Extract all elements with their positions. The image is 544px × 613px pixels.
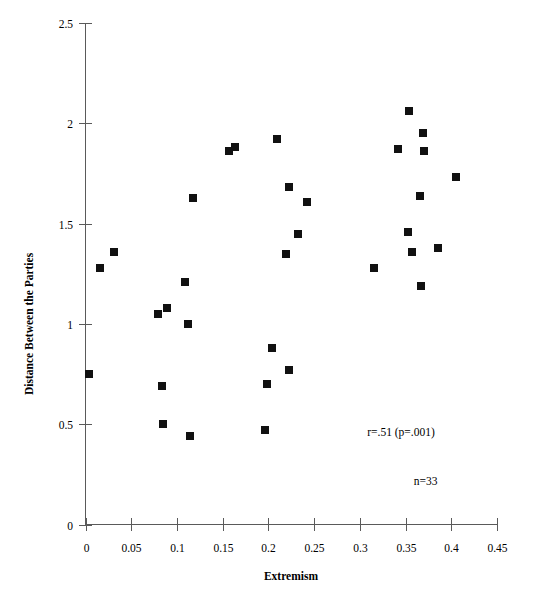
x-tick-label: 0.3 <box>353 542 368 554</box>
y-tick-label: 2 <box>67 118 73 130</box>
y-tick-label: 0.5 <box>59 419 74 431</box>
x-tick-label: 0.35 <box>396 542 416 554</box>
data-point <box>394 145 402 153</box>
annotation-correlation: r=.51 (p=.001) <box>367 426 435 439</box>
data-point <box>420 147 428 155</box>
data-point <box>231 143 239 151</box>
data-point <box>181 278 189 286</box>
data-point <box>303 198 311 206</box>
y-axis-title: Distance Between the Parties <box>23 252 35 395</box>
y-tick-label: 1.5 <box>59 219 74 231</box>
y-tick-label: 2.5 <box>59 18 74 30</box>
x-axis-tick-labels: 00.050.10.150.20.250.30.350.40.45 <box>84 542 508 554</box>
data-point <box>294 230 302 238</box>
data-point <box>416 192 424 200</box>
data-point <box>85 370 93 378</box>
data-point <box>163 304 171 312</box>
data-point <box>408 248 416 256</box>
data-point <box>261 426 269 434</box>
data-point <box>452 173 460 181</box>
annotation-sample-size: n=33 <box>414 475 438 487</box>
x-tick-label: 0 <box>84 542 90 554</box>
x-tick-label: 0.25 <box>304 542 324 554</box>
data-point <box>263 380 271 388</box>
data-point <box>434 244 442 252</box>
x-tick-label: 0.4 <box>444 542 459 554</box>
data-point <box>404 228 412 236</box>
data-point <box>370 264 378 272</box>
scatter-plot-figure: 00.511.522.5 00.050.10.150.20.250.30.350… <box>0 0 544 613</box>
data-point <box>159 420 167 428</box>
x-tick-label: 0.15 <box>213 542 233 554</box>
chart-canvas: 00.511.522.5 00.050.10.150.20.250.30.350… <box>0 0 544 613</box>
data-point <box>110 248 118 256</box>
data-point <box>285 366 293 374</box>
data-point <box>96 264 104 272</box>
data-point <box>273 135 281 143</box>
data-point <box>419 129 427 137</box>
chart-annotations: r=.51 (p=.001)n=33 <box>367 426 438 487</box>
x-tick-label: 0.05 <box>121 542 141 554</box>
x-tick-label: 0.45 <box>487 542 507 554</box>
data-point <box>285 183 293 191</box>
data-point <box>189 194 197 202</box>
y-tick-label: 0 <box>67 520 73 532</box>
x-tick-label: 0.1 <box>170 542 185 554</box>
x-tick-label: 0.2 <box>261 542 276 554</box>
y-axis-tick-labels: 00.511.522.5 <box>59 18 74 532</box>
data-point <box>405 107 413 115</box>
data-point <box>268 344 276 352</box>
data-point <box>186 432 194 440</box>
data-point <box>417 282 425 290</box>
data-point <box>282 250 290 258</box>
data-point <box>154 310 162 318</box>
data-point-markers <box>85 107 460 440</box>
data-point <box>158 382 166 390</box>
y-tick-label: 1 <box>67 319 73 331</box>
x-axis-title: Extremism <box>264 570 319 582</box>
data-point <box>184 320 192 328</box>
